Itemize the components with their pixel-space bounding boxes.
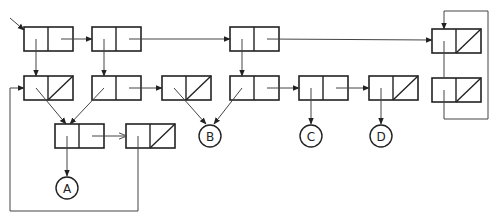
nil-slash-icon [186, 76, 211, 100]
cons-cell [369, 76, 418, 100]
cons-cell [126, 124, 175, 148]
atom-c: C [300, 125, 322, 147]
nil-slash-icon [393, 76, 418, 100]
entry-pointer-arrow [10, 18, 24, 30]
cons-cell [162, 76, 211, 100]
pointer-arrow [70, 88, 104, 124]
pointer-arrow [267, 39, 432, 40]
atom-label: C [307, 130, 315, 144]
atom-b: B [199, 125, 221, 147]
nil-slash-icon [150, 124, 175, 148]
atom-label: A [63, 182, 72, 196]
atom-label: B [206, 130, 214, 144]
cons-cell [432, 29, 481, 53]
loop-back-arrow [444, 11, 488, 119]
nil-slash-icon [48, 76, 73, 100]
pointer-links [10, 11, 488, 211]
cons-cells [24, 27, 481, 148]
atom-a: A [56, 177, 78, 199]
atom-label: D [376, 130, 385, 144]
pointer-arrow [36, 88, 66, 124]
cons-cell [432, 78, 481, 102]
cons-cell [24, 76, 73, 100]
cons-cell-diagram: ABCD [0, 0, 498, 222]
atom-d: D [370, 125, 392, 147]
nil-slash-icon [456, 78, 481, 102]
pointer-arrow [174, 88, 206, 124]
pointer-arrow [214, 88, 242, 124]
nil-slash-icon [456, 29, 481, 53]
